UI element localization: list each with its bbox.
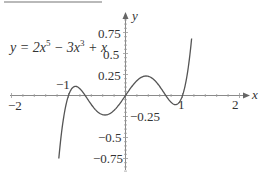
equation-label: y = 2x5 − 3x3 + x <box>10 38 107 56</box>
x-axis-label: x <box>252 88 258 101</box>
y-tick-label-025: 0.25 <box>98 69 121 82</box>
x-tick-label-1: 1 <box>178 98 185 111</box>
y-tick-label-neg075: −0.75 <box>93 152 123 165</box>
y-tick-label-05: 0.5 <box>103 48 119 61</box>
y-axis-label: y <box>132 9 138 22</box>
y-tick-label-075: 0.75 <box>98 27 121 40</box>
y-axis-arrow-icon <box>123 12 129 19</box>
x-tick-label-neg2: −2 <box>8 99 22 112</box>
x-tick-label-2: 2 <box>232 98 239 111</box>
x-tick-label-neg1: −1 <box>56 78 70 91</box>
y-tick-label-neg025: −0.25 <box>130 110 160 123</box>
y-tick-label-neg05: −0.5 <box>98 131 122 144</box>
function-plot <box>0 0 261 175</box>
x-axis-arrow-icon <box>243 93 250 99</box>
